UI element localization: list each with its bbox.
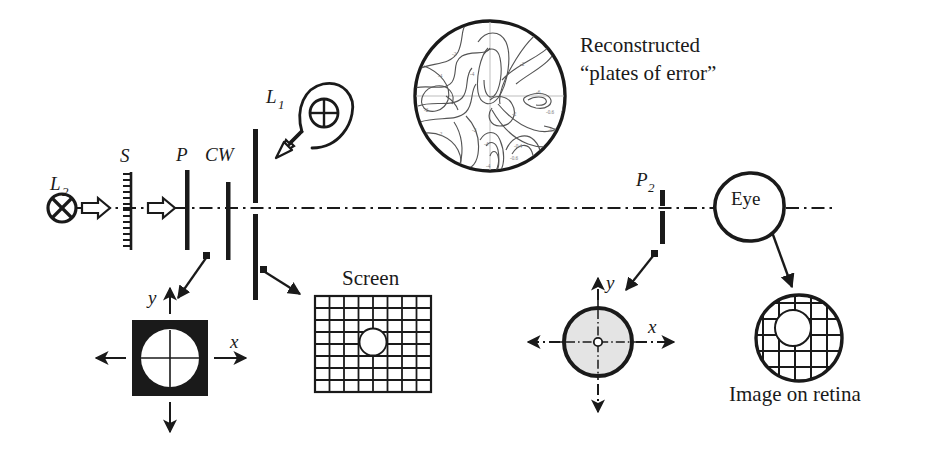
label-L2: L — [49, 173, 61, 194]
aperture-plate-bars — [253, 129, 258, 300]
svg-text:-0.6: -0.6 — [546, 109, 555, 115]
diffuser-S — [123, 172, 131, 250]
gray-circle-x-label: x — [647, 316, 657, 337]
arrow-eye-to-retina — [772, 232, 792, 287]
black-square-x-label: x — [229, 331, 239, 352]
label-P1: P — [175, 144, 188, 165]
hollow-arrow-source-to-diffuser — [82, 198, 110, 218]
optical-setup-diagram: L 2 S — [0, 0, 936, 461]
eye-label: Eye — [731, 188, 761, 209]
label-P2: P — [635, 169, 648, 190]
label-CW: CW — [205, 144, 236, 165]
label-L1: L — [265, 86, 277, 107]
lens-L1 — [300, 83, 353, 148]
screen-label: Screen — [342, 266, 400, 290]
svg-text:-2: -2 — [452, 51, 457, 57]
svg-text:-4: -4 — [470, 71, 475, 77]
hollow-arrow-plate-pointer-shape — [276, 131, 303, 158]
reconstructed-label-line2: “plates of error” — [580, 61, 716, 85]
svg-text:-4: -4 — [486, 163, 491, 169]
leader-p2-to-gray-circle — [626, 250, 658, 290]
figure-canvas: L 2 S — [0, 0, 936, 461]
leader-plate-to-screen — [260, 266, 300, 294]
retina-image — [756, 295, 842, 381]
svg-text:-2: -2 — [438, 131, 443, 137]
svg-text:-4: -4 — [484, 141, 489, 147]
gray-circle-hub — [594, 338, 602, 346]
svg-text:-2: -2 — [520, 61, 525, 67]
reconstructed-plate-circle: -2 -4 -4 -2 -6 -2 -2 -0.6 -0.8 -2 -2 -4 … — [414, 20, 566, 172]
label-L2-subscript: 2 — [62, 184, 69, 199]
svg-text:-6: -6 — [536, 89, 541, 95]
retina-spot — [775, 310, 811, 346]
corrective-window-CW-bar — [226, 182, 231, 260]
svg-text:-2: -2 — [424, 107, 429, 113]
black-square-target — [132, 320, 208, 396]
polarizer-P1-bar — [185, 170, 190, 250]
svg-text:-2: -2 — [512, 111, 517, 117]
retina-label: Image on retina — [729, 382, 861, 406]
screen-grid — [315, 296, 431, 392]
black-square-y-label: y — [146, 287, 157, 308]
svg-text:-2: -2 — [472, 127, 477, 133]
label-P2-subscript: 2 — [648, 180, 655, 195]
svg-text:-4: -4 — [438, 73, 443, 79]
gray-circle-target — [564, 308, 632, 376]
svg-text:-6: -6 — [446, 165, 451, 171]
screen-spot — [360, 329, 387, 356]
polarizer-P2-bars — [660, 190, 665, 244]
gray-circle-y-label: y — [604, 272, 615, 293]
hollow-arrow-diffuser-to-P1 — [148, 198, 175, 218]
svg-text:-0.6: -0.6 — [510, 155, 519, 161]
label-L1-subscript: 1 — [278, 97, 285, 112]
svg-text:-0.4: -0.4 — [514, 143, 523, 149]
label-S: S — [120, 145, 130, 166]
leader-cw-to-black-square — [178, 252, 210, 298]
reconstructed-label-line1: Reconstructed — [580, 33, 701, 57]
